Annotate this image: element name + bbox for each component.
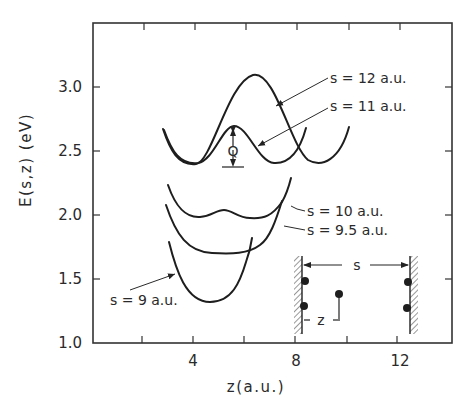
x-tick-4: 4: [188, 352, 198, 370]
inset-z-label: z: [317, 312, 324, 328]
left-wall: [294, 256, 302, 334]
chart-canvas: 3.0 2.5 2.0 1.5 1.0 4 8 12 z(a.u.) E(s,z…: [0, 0, 468, 411]
label-s95: s = 9.5 a.u.: [307, 222, 388, 238]
inset-schematic: s z: [294, 256, 418, 334]
curve-s10: [168, 178, 291, 218]
y-axis-label: E(s,z) (eV): [17, 113, 35, 207]
atom: [404, 278, 412, 286]
y-tick-3.0: 3.0: [58, 78, 82, 96]
y-tick-1.5: 1.5: [58, 270, 82, 288]
curve-s9: [169, 238, 252, 302]
leader-s11: [258, 108, 328, 146]
x-axis-label: z(a.u.): [227, 378, 285, 396]
curve-s12: [163, 75, 349, 164]
label-s9: s = 9 a.u.: [110, 292, 178, 308]
label-s12: s = 12 a.u.: [330, 70, 407, 86]
leader-s9: [130, 274, 175, 290]
atom: [403, 304, 411, 312]
left-ticks: [93, 87, 100, 279]
top-ticks: [144, 23, 400, 30]
x-tick-8: 8: [291, 352, 301, 370]
label-s10: s = 10 a.u.: [307, 203, 384, 219]
y-tick-2.0: 2.0: [58, 206, 82, 224]
bottom-ticks: [142, 336, 397, 343]
right-wall: [410, 256, 418, 334]
y-tick-1.0: 1.0: [58, 334, 82, 352]
x-tick-12: 12: [390, 352, 409, 370]
leader-s10: [291, 206, 305, 211]
atom: [300, 302, 308, 310]
y-tick-2.5: 2.5: [58, 142, 82, 160]
label-s11: s = 11 a.u.: [330, 98, 407, 114]
leader-s12: [276, 78, 328, 106]
curve-s95: [166, 201, 282, 253]
q-label: Q: [227, 143, 238, 159]
right-ticks: [445, 87, 452, 279]
leader-s95: [284, 226, 305, 230]
atom: [301, 277, 309, 285]
inset-s-label: s: [353, 257, 360, 273]
adatom: [335, 290, 343, 298]
q-annotation: Q: [222, 128, 244, 167]
